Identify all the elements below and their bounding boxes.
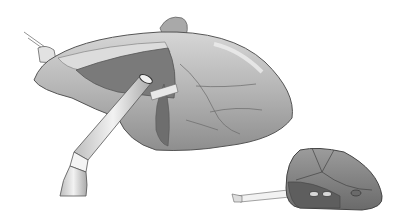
pump-device [286, 148, 382, 210]
device-lead [232, 190, 290, 202]
surgical-illustration [0, 0, 402, 218]
